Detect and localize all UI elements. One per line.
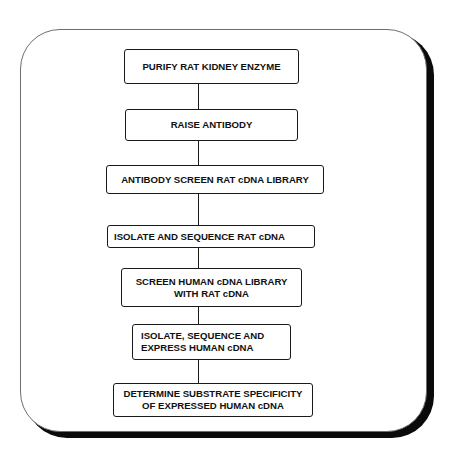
connector-3-4	[198, 194, 199, 225]
step-label: RAISE ANTIBODY	[171, 119, 253, 131]
flow-step-isolate-rat-cdna: ISOLATE AND SEQUENCE RAT cDNA	[107, 225, 315, 248]
connector-1-2	[198, 84, 199, 109]
step-label: ANTIBODY SCREEN RAT cDNA LIBRARY	[121, 174, 309, 186]
step-label: ISOLATE AND SEQUENCE RAT cDNA	[114, 231, 285, 243]
flow-step-determine-specificity: DETERMINE SUBSTRATE SPECIFICITY OF EXPRE…	[113, 383, 313, 417]
step-label: PURIFY RAT KIDNEY ENZYME	[142, 61, 280, 73]
step-label: DETERMINE SUBSTRATE SPECIFICITY OF EXPRE…	[124, 388, 303, 412]
step-label: ISOLATE, SEQUENCE AND EXPRESS HUMAN cDNA	[141, 330, 264, 354]
step-label: SCREEN HUMAN cDNA LIBRARY WITH RAT cDNA	[136, 276, 288, 300]
flow-step-screen-human-library: SCREEN HUMAN cDNA LIBRARY WITH RAT cDNA	[121, 268, 302, 307]
connector-4-5	[198, 248, 199, 268]
flow-step-express-human-cdna: ISOLATE, SEQUENCE AND EXPRESS HUMAN cDNA	[132, 324, 291, 360]
flow-step-raise-antibody: RAISE ANTIBODY	[125, 109, 298, 141]
flow-step-purify-enzyme: PURIFY RAT KIDNEY ENZYME	[124, 49, 299, 84]
connector-6-7	[198, 360, 199, 383]
connector-2-3	[198, 141, 199, 165]
connector-5-6	[198, 307, 199, 324]
flow-step-antibody-screen: ANTIBODY SCREEN RAT cDNA LIBRARY	[106, 165, 324, 194]
